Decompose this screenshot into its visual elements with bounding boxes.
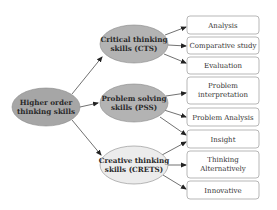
cts-label-line2: skills (CTS) xyxy=(111,44,158,53)
node-creative-thinking: Creative thinking skills (CRETS) xyxy=(99,146,170,184)
arrow-pss-interpretation xyxy=(166,93,186,96)
thinking-skills-diagram: Higher order thinking skills Critical th… xyxy=(0,0,277,210)
arrow-root-to-crets xyxy=(72,120,101,155)
node-problem-solving: Problem solving skills (PSS) xyxy=(100,84,168,122)
cts-label-line1: Critical thinking xyxy=(100,35,167,44)
pss-label-line1: Problem solving xyxy=(101,94,166,103)
label-problem-analysis: Problem Analysis xyxy=(192,114,254,122)
label-thinking: Thinking xyxy=(207,156,239,164)
arrow-root-to-cts xyxy=(72,57,102,94)
arrow-crets-insight xyxy=(162,142,186,155)
arrow-cts-analysis xyxy=(165,27,186,35)
label-evaluation: Evaluation xyxy=(204,62,242,70)
root-node: Higher order thinking skills xyxy=(12,88,80,126)
crets-label-line1: Creative thinking xyxy=(99,156,170,165)
arrow-cts-comparative xyxy=(168,45,186,46)
arrow-cts-evaluation xyxy=(164,54,186,63)
root-label-line1: Higher order xyxy=(20,98,73,107)
label-insight: Insight xyxy=(211,136,236,144)
arrow-root-to-pss xyxy=(80,103,98,107)
arrow-pss-insight xyxy=(160,117,186,135)
label-alternatively: Alternatively xyxy=(199,165,246,173)
crets-label-line2: skills (CRETS) xyxy=(105,165,163,174)
arrow-pss-analysis xyxy=(164,110,186,117)
pss-label-line2: skills (PSS) xyxy=(111,103,157,112)
label-comparative-study: Comparative study xyxy=(189,42,256,50)
label-analysis: Analysis xyxy=(207,22,238,30)
root-label-line2: thinking skills xyxy=(17,107,75,116)
arrow-crets-innovative xyxy=(163,175,186,189)
label-innovative: Innovative xyxy=(204,187,241,195)
node-critical-thinking: Critical thinking skills (CTS) xyxy=(100,25,168,63)
label-interpretation: interpretation xyxy=(198,91,248,99)
label-problem: Problem xyxy=(208,82,238,90)
